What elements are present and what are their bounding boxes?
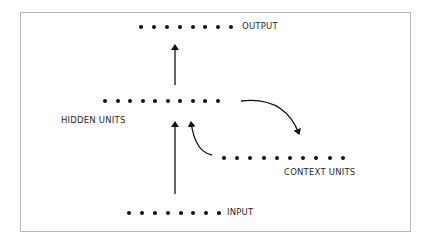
connection-arrows — [0, 0, 432, 242]
context-to-hidden-arrow — [191, 122, 212, 155]
hidden-to-context-arrow — [241, 100, 299, 134]
